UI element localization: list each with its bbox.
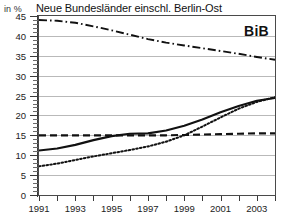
chart-page: in % Neue Bundesländer einschl. Berlin-O… [0,0,281,222]
x-tick-mark [75,196,76,201]
y-tick-label: 40 [15,30,26,41]
x-axis: 1991199319951997199920012003 [38,196,276,222]
x-tick-mark [202,196,203,201]
x-tick-mark [39,196,40,201]
y-tick-mark [30,96,38,97]
y-tick-label: 25 [15,90,26,101]
x-tick-label: 1997 [137,203,158,214]
x-tick-mark [221,196,222,201]
y-tick-mark [30,155,38,156]
y-tick-label: 35 [15,50,26,61]
y-tick-label: 30 [15,70,26,81]
x-tick-mark [130,196,131,201]
x-tick-label: 2003 [246,203,267,214]
y-tick-label: 20 [15,110,26,121]
x-tick-mark [184,196,185,201]
y-tick-mark [30,135,38,136]
y-tick-label: 15 [15,130,26,141]
y-tick-mark [30,115,38,116]
x-tick-mark [239,196,240,201]
x-tick-mark [148,196,149,201]
x-tick-mark [57,196,58,201]
x-tick-label: 2001 [210,203,231,214]
x-tick-mark [166,196,167,201]
page-title: Neue Bundesländer einschl. Berlin-Ost [36,2,222,14]
series-solid [39,98,275,151]
x-tick-mark [112,196,113,201]
x-tick-label: 1993 [65,203,86,214]
x-tick-mark [257,196,258,201]
plot-area: BiB [38,15,276,196]
y-axis: 051015202530354045 [0,0,38,200]
x-tick-label: 1999 [174,203,195,214]
y-tick-label: 5 [21,170,26,181]
y-tick-label: 45 [15,11,26,22]
series-dashed [39,133,275,135]
series-group [39,16,275,195]
y-tick-mark [30,36,38,37]
x-tick-mark [275,196,276,201]
y-tick-mark [30,16,38,17]
y-tick-mark [30,56,38,57]
y-tick-label: 0 [21,190,26,201]
x-tick-mark [93,196,94,201]
series-dashdot [39,20,275,60]
y-tick-mark [30,175,38,176]
y-tick-mark [30,76,38,77]
y-tick-mark [30,195,38,196]
x-tick-label: 1991 [28,203,49,214]
x-tick-label: 1995 [101,203,122,214]
y-tick-label: 10 [15,150,26,161]
